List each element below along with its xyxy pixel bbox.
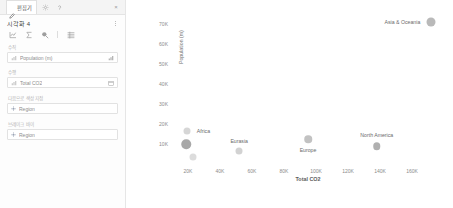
sigma-icon[interactable] [24, 30, 33, 39]
bubble-south-america[interactable] [189, 154, 196, 161]
x-tick: 60K [248, 168, 257, 174]
y-tick: 60K [159, 41, 168, 47]
more-options-icon[interactable] [111, 18, 120, 29]
field-label-horizontal: 수평 [8, 69, 118, 75]
gear-icon[interactable] [40, 1, 51, 13]
bubble-africa[interactable] [184, 128, 191, 135]
chart-area: Population (m) 10K20K30K40K50K60K70K 20K… [126, 0, 453, 208]
pencil-icon [9, 5, 15, 11]
x-tick: 40K [216, 168, 225, 174]
field-vertical-value: Population (m) [20, 55, 53, 61]
bubble-label: Eurasia [230, 138, 248, 144]
x-tick: 120K [342, 168, 354, 174]
page-title: 시각화 4 [7, 19, 30, 28]
x-tick: 100K [310, 168, 322, 174]
table-icon[interactable] [66, 30, 75, 39]
field-horizontal-value: Total CO2 [20, 80, 42, 86]
field-color-by-value: Region [19, 106, 35, 112]
dimension-icon [11, 106, 16, 111]
y-axis-label: Population (m) [178, 30, 184, 64]
sort-icon[interactable] [108, 55, 114, 61]
y-tick: 10K [159, 141, 168, 147]
bubble-eurasia[interactable] [236, 148, 243, 155]
y-tick: 40K [159, 81, 168, 87]
x-tick: 160K [406, 168, 418, 174]
tab-editor[interactable]: 편집기 [6, 0, 37, 14]
measure-icon [11, 55, 17, 61]
x-tick: 80K [280, 168, 289, 174]
editor-toolbar [0, 29, 125, 42]
y-tick: 20K [159, 121, 168, 127]
field-vertical[interactable]: Population (m) [7, 52, 118, 63]
visualization-title-row: 시각화 4 [0, 15, 125, 29]
x-tick: 20K [184, 168, 193, 174]
bubble-label: Europe [300, 147, 317, 153]
field-group-color-by: 다음으로 색상 지정 Region [0, 88, 125, 114]
bubble-asia-oceania[interactable] [427, 18, 436, 27]
tab-editor-label: 편집기 [17, 4, 32, 11]
line-chart-icon[interactable] [8, 30, 17, 39]
measure-icon [11, 80, 17, 86]
x-tick: 140K [374, 168, 386, 174]
y-tick: 50K [159, 61, 168, 67]
field-group-vertical: 수직 Population (m) [0, 42, 125, 63]
editor-panel: 편집기 [0, 0, 126, 208]
close-icon[interactable]: × [111, 2, 121, 12]
field-break-by-value: Region [19, 132, 35, 138]
scatter-plot: Population (m) 10K20K30K40K50K60K70K 20K… [172, 14, 444, 164]
field-break-by[interactable]: Region [7, 129, 118, 140]
field-group-break-by: 브레이크 바이 Region [0, 114, 125, 140]
bubble-label: Asia & Oceania [385, 19, 421, 25]
field-label-vertical: 수직 [8, 44, 118, 50]
field-label-break-by: 브레이크 바이 [8, 121, 118, 127]
bubble-label: North America [360, 132, 393, 138]
paint-icon[interactable] [40, 30, 49, 39]
bubble-label: Africa [197, 128, 210, 134]
y-tick: 70K [159, 21, 168, 27]
panel-tabbar: 편집기 [0, 0, 125, 15]
bubble-middle-east[interactable] [182, 139, 192, 149]
app-window: 편집기 [0, 0, 453, 208]
bubble-europe[interactable] [304, 135, 312, 143]
calendar-icon[interactable] [108, 80, 114, 86]
field-horizontal[interactable]: Total CO2 [7, 77, 118, 88]
field-color-by[interactable]: Region [7, 103, 118, 114]
x-axis-label: Total CO2 [172, 176, 444, 182]
question-icon[interactable] [54, 1, 65, 13]
field-label-color-by: 다음으로 색상 지정 [8, 95, 118, 101]
toolbar-divider [57, 31, 58, 38]
y-tick: 30K [159, 101, 168, 107]
bubble-north-america[interactable] [373, 142, 381, 150]
field-group-horizontal: 수평 Total CO2 [0, 63, 125, 88]
dimension-icon [11, 132, 16, 137]
